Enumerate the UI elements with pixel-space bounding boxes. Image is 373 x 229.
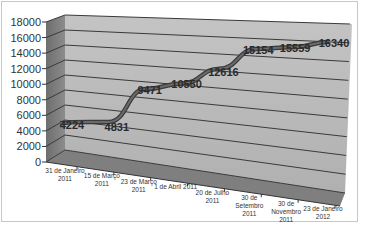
y-tick-label: 4000 [17,125,41,137]
x-tick-label: 30 deSetembro2011 [235,194,264,217]
x-tick-label: 31 de Janeiro2011 [45,167,85,182]
y-tick-label: 12000 [10,63,41,75]
line-chart-3d: 0200040006000800010000120001400016000180… [0,0,373,229]
data-label: 15154 [243,44,274,56]
x-tick-label: 15 de Março2011 [84,172,121,187]
y-tick-label: 16000 [10,32,41,44]
side-wall [46,15,65,162]
y-tick-label: 18000 [10,16,41,28]
data-label: 4224 [60,119,85,131]
y-tick-label: 10000 [10,78,41,90]
data-label: 12616 [208,66,239,78]
y-tick-label: 6000 [17,109,41,121]
x-tick-label: 23 de Janeiro2012 [303,205,343,220]
data-label: 9471 [137,84,161,96]
y-tick-label: 2000 [17,140,41,152]
x-tick-label: 30 deNovembro2011 [271,200,301,223]
y-tick-label: 14000 [10,47,41,59]
x-tick-label: 23 de Março2011 [121,178,158,193]
data-label: 10550 [171,78,202,90]
data-label: 16340 [319,37,350,49]
data-label: 4831 [105,121,129,133]
x-tick-label: 1 de Abril 2011 [154,183,197,190]
y-tick-label: 0 [35,156,41,168]
y-tick-label: 8000 [17,94,41,106]
data-label: 15559 [280,42,311,54]
